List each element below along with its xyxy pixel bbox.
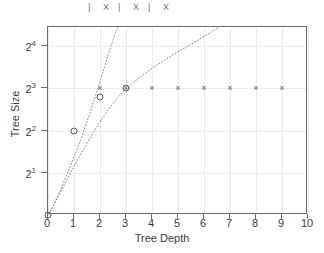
y-tick-label: 24 xyxy=(2,38,36,53)
y-tick-mark xyxy=(41,45,47,46)
y-tick-label: 21 xyxy=(2,165,36,180)
x-tick-mark xyxy=(203,214,204,219)
data-point-cross: × xyxy=(174,84,183,93)
x-tick-mark xyxy=(125,214,126,219)
y-tick-exponent: 1 xyxy=(32,166,36,175)
legend-marker-x: X xyxy=(133,1,139,13)
x-tick-mark xyxy=(229,214,230,219)
y-tick-exponent: 3 xyxy=(32,81,36,90)
x-tick-mark xyxy=(281,214,282,219)
gridline-vertical xyxy=(308,27,309,213)
x-tick-mark xyxy=(177,214,178,219)
data-point-cross: × xyxy=(200,84,209,93)
x-tick-mark xyxy=(255,214,256,219)
y-tick-exponent: 4 xyxy=(32,39,36,48)
x-tick-mark xyxy=(47,214,48,219)
x-axis-title: Tree Depth xyxy=(0,232,324,244)
x-tick-mark xyxy=(73,214,74,219)
y-tick-mark xyxy=(41,130,47,131)
data-point-cross: × xyxy=(148,84,157,93)
plot-area: ×××××××× xyxy=(47,26,307,214)
y-axis-title: Tree Size xyxy=(9,69,21,159)
legend-separator: | xyxy=(148,1,150,13)
legend-strip: |X|X|X xyxy=(0,0,324,16)
x-tick-mark xyxy=(151,214,152,219)
trend-curves xyxy=(48,27,308,215)
saturating-curve-path xyxy=(49,27,219,214)
legend-marker-x: X xyxy=(103,1,109,13)
legend-separator: | xyxy=(88,1,90,13)
legend-marker-x: X xyxy=(163,1,169,13)
exponential-curve-path xyxy=(49,27,118,214)
y-tick-exponent: 2 xyxy=(32,124,36,133)
x-tick-mark xyxy=(99,214,100,219)
data-point-cross: × xyxy=(252,84,261,93)
x-tick-mark xyxy=(307,214,308,219)
data-point-cross: × xyxy=(96,84,105,93)
y-tick-mark xyxy=(41,172,47,173)
data-point-cross: × xyxy=(122,84,131,93)
legend-separator: | xyxy=(118,1,120,13)
data-point-circle xyxy=(97,94,104,101)
data-point-cross: × xyxy=(278,84,287,93)
data-point-circle xyxy=(71,127,78,134)
y-tick-mark xyxy=(41,87,47,88)
data-point-cross: × xyxy=(226,84,235,93)
